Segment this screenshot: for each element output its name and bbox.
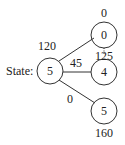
edge-root-to-child-2	[59, 80, 95, 103]
child-2-annotation: 160	[91, 127, 117, 139]
edge-label-0: 120	[38, 40, 56, 52]
child-1-value: 4	[91, 66, 117, 78]
root-node-value: 5	[37, 65, 63, 77]
child-0-annotation: 0	[91, 7, 117, 19]
edge-label-2: 0	[67, 93, 73, 105]
state-label: State:	[6, 65, 33, 77]
child-2-value: 5	[91, 105, 117, 117]
edge-label-1: 45	[70, 57, 82, 69]
child-0-value: 0	[91, 29, 117, 41]
child-1-annotation: 125	[91, 50, 117, 62]
